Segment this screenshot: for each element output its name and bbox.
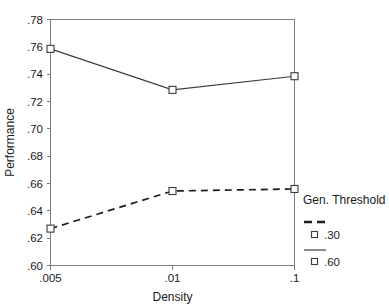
y-tick-label: .78 xyxy=(27,14,43,26)
y-tick-label: .72 xyxy=(27,96,43,108)
data-point-marker xyxy=(291,185,298,192)
data-point-marker xyxy=(169,188,176,195)
y-tick-label: .76 xyxy=(27,41,43,53)
x-tick-label: .005 xyxy=(39,272,61,284)
chart-plot-area: .78 .76 .74 .72 .70 .68 .66 .64 .62 .60 … xyxy=(0,0,389,308)
legend-entry-label: .60 xyxy=(324,256,340,268)
chart-figure: .78 .76 .74 .72 .70 .68 .66 .64 .62 .60 … xyxy=(0,0,389,308)
data-point-marker xyxy=(291,73,298,80)
plot-frame xyxy=(51,20,295,266)
x-tick-label: .01 xyxy=(165,272,181,284)
legend-title: Gen. Threshold xyxy=(303,193,386,207)
x-axis-tick-labels: .005 .01 .1 xyxy=(39,272,299,284)
x-axis-title: Density xyxy=(152,290,192,304)
y-tick-label: .62 xyxy=(27,232,43,244)
series-layer xyxy=(47,45,298,232)
x-axis-ticks xyxy=(51,266,295,270)
data-point-marker xyxy=(169,86,176,93)
y-axis-title: Performance xyxy=(3,108,17,177)
y-tick-label: .66 xyxy=(27,178,43,190)
y-tick-label: .74 xyxy=(27,68,44,80)
y-axis-tick-labels: .78 .76 .74 .72 .70 .68 .66 .64 .62 .60 xyxy=(27,14,44,272)
x-tick-label: .1 xyxy=(290,272,300,284)
legend: Gen. Threshold .30 .60 xyxy=(303,193,386,268)
data-point-marker xyxy=(47,45,54,52)
y-tick-label: .64 xyxy=(27,205,44,217)
y-tick-label: .70 xyxy=(27,123,43,135)
data-point-marker xyxy=(47,225,54,232)
series-line-.60 xyxy=(51,49,295,90)
legend-entry-label: .30 xyxy=(324,229,340,241)
y-tick-label: .60 xyxy=(27,260,43,272)
y-tick-label: .68 xyxy=(27,150,43,162)
legend-marker-icon xyxy=(312,232,318,238)
legend-marker-icon xyxy=(312,259,318,265)
